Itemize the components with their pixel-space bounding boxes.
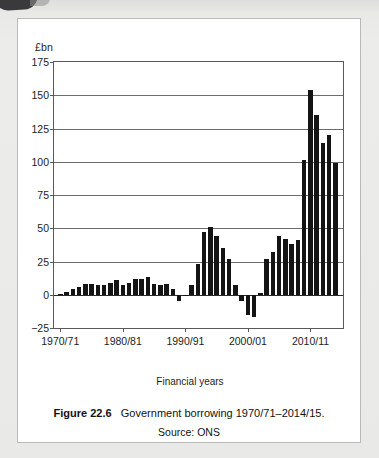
- bar: [239, 295, 244, 302]
- bar: [164, 284, 169, 295]
- bar-series: [54, 62, 343, 328]
- x-tick-label: 1980/81: [104, 335, 142, 347]
- y-axis-unit-label: £bn: [35, 41, 53, 53]
- x-tick-mark: [248, 328, 249, 332]
- bar: [127, 283, 132, 295]
- y-tick-label: 150: [31, 89, 49, 101]
- x-tick-mark: [310, 328, 311, 332]
- plot-area: 1751501251007550250−25 1970/711980/81199…: [53, 61, 344, 329]
- x-tick-label: 1970/71: [41, 335, 79, 347]
- bar: [96, 285, 101, 294]
- bar: [327, 135, 332, 295]
- bar: [83, 284, 88, 295]
- bar: [202, 232, 207, 295]
- bar: [89, 284, 94, 295]
- bar: [196, 264, 201, 295]
- bar: [277, 236, 282, 295]
- bar: [133, 279, 138, 295]
- y-tick-mark: [50, 328, 54, 329]
- bar: [221, 248, 226, 295]
- bar: [114, 280, 119, 295]
- bar: [271, 252, 276, 295]
- bar: [177, 295, 182, 302]
- x-tick-mark: [60, 328, 61, 332]
- x-tick-label: 1990/91: [166, 335, 204, 347]
- bar: [77, 287, 82, 295]
- y-tick-label: 100: [31, 156, 49, 168]
- y-tick-label: −25: [31, 322, 49, 334]
- bar: [283, 239, 288, 295]
- y-tick-label: 25: [37, 256, 49, 268]
- bar: [289, 244, 294, 295]
- bar: [333, 163, 338, 295]
- x-tick-mark: [123, 328, 124, 332]
- x-axis-title: Financial years: [18, 376, 362, 387]
- bar: [264, 259, 269, 295]
- bar: [64, 292, 69, 295]
- y-tick-label: 125: [31, 123, 49, 135]
- bar: [171, 289, 176, 294]
- x-tick-label: 2000/01: [229, 335, 267, 347]
- bar: [158, 285, 163, 294]
- bar: [58, 294, 63, 295]
- bar: [214, 236, 219, 295]
- bar: [314, 115, 319, 295]
- bar: [71, 289, 76, 294]
- bar: [308, 90, 313, 295]
- bar: [258, 293, 263, 294]
- y-tick-label: 75: [37, 189, 49, 201]
- figure-card: £bn 1751501251007550250−25 1970/711980/8…: [17, 18, 361, 443]
- bar: [233, 285, 238, 294]
- figure-source: Source: ONS: [26, 424, 352, 440]
- bar: [183, 295, 188, 296]
- bar: [189, 285, 194, 294]
- bar: [296, 240, 301, 295]
- bar: [152, 284, 157, 295]
- bar: [227, 259, 232, 295]
- bar: [321, 143, 326, 295]
- bar: [102, 285, 107, 294]
- bar: [146, 277, 151, 294]
- y-tick-label: 175: [31, 56, 49, 68]
- bar: [246, 295, 251, 315]
- chart-container: £bn 1751501251007550250−25 1970/711980/8…: [18, 19, 362, 349]
- figure-number: Figure 22.6: [54, 407, 112, 419]
- bar: [139, 279, 144, 295]
- figure-caption: Figure 22.6 Government borrowing 1970/71…: [26, 405, 352, 440]
- x-tick-mark: [185, 328, 186, 332]
- bar: [208, 227, 213, 295]
- figure-caption-text: Government borrowing 1970/71–2014/15.: [121, 407, 325, 419]
- y-tick-label: 0: [43, 289, 49, 301]
- y-tick-label: 50: [37, 222, 49, 234]
- bar: [252, 295, 257, 318]
- x-tick-label: 2010/11: [292, 335, 329, 347]
- bar: [302, 160, 307, 294]
- bar: [121, 285, 126, 294]
- bar: [108, 283, 113, 295]
